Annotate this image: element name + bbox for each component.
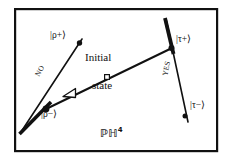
tau-minus-node [183, 114, 188, 119]
label-projective-hilbert-space: ℙℍ4 [100, 127, 123, 139]
label-space-H: ℍ [108, 127, 118, 139]
label-initial-state-line2: state [92, 80, 112, 91]
tau-plus-node [169, 45, 175, 51]
label-tau-minus: |τ−⟩ [190, 101, 205, 111]
figure-canvas: |ρ+⟩ |ρ−⟩ |τ+⟩ |τ−⟩ NO YES Initial state… [0, 0, 231, 164]
label-space-exponent: 4 [118, 126, 123, 134]
label-tau-plus: |τ+⟩ [176, 35, 191, 45]
label-space-P: ℙ [100, 127, 108, 139]
label-initial-state-line1: Initial [85, 52, 111, 63]
rho-plus-node [77, 40, 82, 45]
label-rho-minus: |ρ−⟩ [41, 110, 57, 120]
diagram-svg [0, 0, 231, 164]
label-rho-plus: |ρ+⟩ [50, 31, 66, 41]
